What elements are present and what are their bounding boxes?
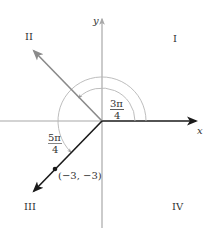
svg-text:5π: 5π [48, 132, 61, 143]
quadrant-label-I: I [173, 33, 177, 44]
x-axis-label: x [197, 125, 203, 136]
y-axis-label: y [92, 15, 99, 26]
svg-text:3π: 3π [110, 98, 123, 109]
svg-text:4: 4 [52, 144, 58, 155]
point-marker [53, 167, 58, 172]
svg-text:4: 4 [114, 110, 120, 121]
label-5pi-over-4: 5π 4 [48, 132, 62, 155]
quadrant-label-IV: IV [172, 201, 184, 212]
point-label: (−3, −3) [58, 170, 102, 181]
terminal-ray-3pi-over-4 [34, 51, 102, 121]
label-3pi-over-4: 3π 4 [110, 98, 124, 121]
angle-diagram: y x I II III IV 3π 4 5π 4 (−3, −3) [0, 0, 214, 228]
quadrant-label-III: III [24, 201, 36, 212]
quadrant-label-II: II [25, 31, 33, 42]
arc-3pi-over-4 [79, 88, 135, 121]
